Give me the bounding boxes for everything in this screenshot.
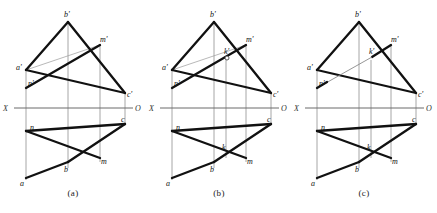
marker-k-front xyxy=(225,56,229,60)
caption-panel-b: (b) xyxy=(146,188,292,198)
label-k-top: k xyxy=(222,143,226,152)
label-k-front: k' xyxy=(369,47,375,56)
segment-km-front-visible xyxy=(372,45,391,57)
labels-b: b' a' c' m' n' k' n c b m a k xyxy=(162,10,279,188)
label-c-top: c xyxy=(121,115,125,124)
label-m-front: m' xyxy=(246,35,254,44)
label-b-front: b' xyxy=(64,10,70,19)
label-k-front: k' xyxy=(224,47,230,56)
panel-c: b' a' c' m' n' k' n c b m a k X O (c) xyxy=(291,0,437,213)
label-m-top: m xyxy=(101,157,107,166)
panel-a: b' a' c' m' n' n c b m a X O (a) xyxy=(0,0,146,213)
label-n-top: n xyxy=(176,123,180,132)
label-a-top: a xyxy=(311,179,315,188)
label-a-top: a xyxy=(20,179,24,188)
triangle-top-a xyxy=(26,124,125,178)
label-n-front: n' xyxy=(174,79,180,88)
edge-ac-top xyxy=(172,124,271,131)
label-m-front: m' xyxy=(391,35,399,44)
label-a-front: a' xyxy=(16,63,22,72)
labels-a: b' a' c' m' n' n c b m a xyxy=(16,10,133,188)
labels-c: b' a' c' m' n' k' n c b m a k xyxy=(307,10,424,188)
label-k-top: k xyxy=(367,143,371,152)
line-mn-top xyxy=(172,131,246,158)
label-m-top: m xyxy=(392,157,398,166)
label-n-top: n xyxy=(30,123,34,132)
label-c-top: c xyxy=(267,115,271,124)
panel-b-drawing: b' a' c' m' n' k' n c b m a k X O xyxy=(146,0,292,213)
label-axis-x: X xyxy=(293,104,300,113)
triangle-front-c xyxy=(317,22,416,93)
label-axis-x: X xyxy=(148,104,155,113)
triangle-front-b xyxy=(172,22,271,93)
label-b-front: b' xyxy=(355,10,361,19)
line-mn-top xyxy=(26,131,100,158)
panel-b: b' a' c' m' n' k' n c b m a k X O (b) xyxy=(146,0,292,213)
label-c-front: c' xyxy=(127,90,133,99)
caption-panel-c: (c) xyxy=(291,188,437,198)
label-b-top: b xyxy=(355,165,359,174)
line-mn-top xyxy=(317,131,391,158)
label-axis-o: O xyxy=(135,104,141,113)
edge-ab-top xyxy=(172,162,214,178)
label-b-front: b' xyxy=(210,10,216,19)
label-c-front: c' xyxy=(273,90,279,99)
label-m-front: m' xyxy=(100,35,108,44)
label-c-front: c' xyxy=(418,90,424,99)
label-a-front: a' xyxy=(162,63,168,72)
triangle-front-a xyxy=(26,22,125,93)
panel-c-drawing: b' a' c' m' n' k' n c b m a k X O xyxy=(291,0,437,213)
label-a-top: a xyxy=(166,179,170,188)
label-a-front: a' xyxy=(307,63,313,72)
edge-ab-front xyxy=(317,22,359,70)
descriptive-geometry-figure: b' a' c' m' n' n c b m a X O (a) xyxy=(0,0,437,213)
edge-ac-top xyxy=(317,124,416,131)
label-m-top: m xyxy=(247,157,253,166)
label-b-top: b xyxy=(64,165,68,174)
label-n-top: n xyxy=(321,123,325,132)
label-axis-o: O xyxy=(281,104,287,113)
edge-ab-top xyxy=(26,162,68,178)
label-b-top: b xyxy=(210,165,214,174)
label-n-front: n' xyxy=(28,79,34,88)
edge-ab-top xyxy=(317,162,359,178)
panel-a-drawing: b' a' c' m' n' n c b m a X O xyxy=(0,0,146,213)
label-axis-x: X xyxy=(2,104,9,113)
edge-ac-top xyxy=(26,124,125,131)
caption-panel-a: (a) xyxy=(0,188,146,198)
label-c-top: c xyxy=(412,115,416,124)
label-axis-o: O xyxy=(426,104,432,113)
label-n-front: n' xyxy=(319,79,325,88)
